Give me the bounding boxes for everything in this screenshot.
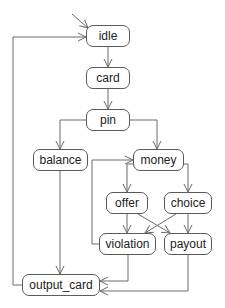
state-payout: payout (164, 233, 212, 255)
edge-violation-output-card (100, 255, 128, 281)
state-idle: idle (86, 25, 130, 47)
state-money: money (133, 149, 184, 171)
state-choice: choice (164, 192, 212, 214)
state-money-label: money (140, 153, 176, 167)
state-choice-label: choice (171, 196, 206, 210)
edge-choice-violation (145, 214, 176, 233)
state-offer-label: offer (115, 196, 139, 210)
state-output-card-label: output_card (29, 278, 92, 292)
edge-payout-output-card (100, 255, 188, 291)
state-idle-label: idle (99, 29, 118, 43)
state-card: card (86, 67, 130, 89)
edge-initial-idle (72, 14, 88, 28)
state-offer: offer (106, 192, 148, 214)
edge-pin-money (130, 120, 157, 149)
state-card-label: card (96, 71, 119, 85)
edge-offer-payout (138, 214, 170, 233)
state-balance: balance (33, 149, 88, 171)
edge-money-choice (184, 164, 188, 192)
state-output-card: output_card (22, 274, 100, 296)
edge-money-offer (127, 164, 133, 192)
state-balance-label: balance (39, 153, 81, 167)
state-payout-label: payout (170, 237, 206, 251)
state-violation-label: violation (105, 237, 149, 251)
state-diagram: idle card pin balance money offer choice… (0, 0, 225, 308)
state-pin-label: pin (100, 113, 116, 127)
state-violation: violation (99, 233, 156, 255)
edge-pin-balance (60, 120, 86, 149)
state-pin: pin (86, 109, 130, 131)
